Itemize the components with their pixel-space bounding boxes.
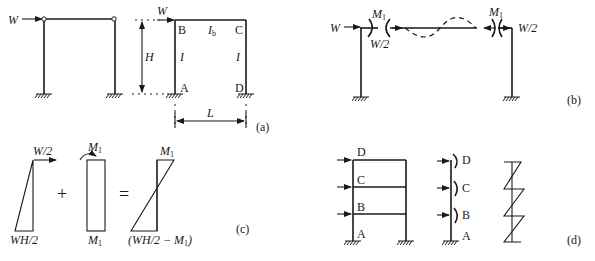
result-bottom-label: (WH/2 − M1) (128, 233, 192, 248)
fixed-support-icon (237, 94, 254, 98)
fixed-support-icon (35, 94, 52, 98)
column-node-b: B (462, 208, 470, 222)
load-label: W (330, 21, 341, 35)
cantilever-moment-diagram (15, 160, 33, 231)
fixed-support-icon (166, 94, 183, 98)
moment-arc-icon (453, 154, 457, 168)
column-inertia-right: I (235, 50, 241, 64)
resultant-moment-diagram (131, 160, 174, 231)
panel-a: W H (8, 4, 269, 134)
result-top-label: M1 (159, 144, 174, 159)
uniform-moment-diagram (87, 160, 105, 231)
moment-bottom-label: M1 (87, 233, 102, 248)
fixed-support-icon (106, 94, 123, 98)
moment-arc-icon (80, 154, 96, 160)
node-a: A (180, 81, 189, 95)
plus-sign: + (57, 184, 67, 204)
pin-icon (112, 17, 116, 21)
moment-top-label: M1 (87, 140, 102, 155)
shear-left-label: W/2 (370, 37, 389, 51)
panel-b-caption: (b) (567, 93, 581, 107)
moment-arc-icon (454, 208, 457, 223)
pinned-frame: W (8, 13, 123, 98)
top-force-label: W/2 (33, 144, 52, 158)
frame-node-b: B (357, 200, 365, 214)
column-node-c: C (462, 181, 470, 195)
panel-d: D C B A D C B A (337, 145, 581, 247)
fixed-support-icon (397, 241, 414, 245)
frame-node-d: D (357, 145, 366, 159)
column-inertia-left: I (179, 50, 185, 64)
pin-icon (42, 17, 46, 21)
node-c: C (235, 23, 243, 37)
panel-c: W/2 WH/2 + M1 M1 = M1 (WH/2 − M1) (c) (10, 140, 249, 248)
base-moment-label: WH/2 (10, 233, 38, 247)
fixed-support-icon (352, 97, 369, 101)
node-d: D (235, 81, 244, 95)
height-dimension: H (132, 20, 165, 94)
height-label: H (144, 50, 155, 64)
frame-node-a: A (357, 227, 366, 241)
zigzag-moment-diagram (504, 162, 524, 242)
structural-frame-figure: W H (0, 0, 595, 261)
moment-right-label: M1 (488, 5, 503, 20)
fixed-support-icon (503, 97, 520, 101)
node-b: B (178, 23, 186, 37)
column-node-d: D (462, 153, 471, 167)
moment-arc-icon (386, 19, 390, 37)
panel-b: W M1 M1 W/2 W/2 (b) (330, 5, 581, 107)
fixed-frame: W B C A D Ib I I (157, 4, 254, 98)
beam-inertia-label: Ib (207, 23, 216, 38)
moment-arc-icon (454, 181, 457, 196)
equals-sign: = (119, 184, 129, 204)
fixed-support-icon (442, 241, 459, 245)
column-node-a: A (462, 229, 471, 243)
panel-a-caption: (a) (256, 120, 269, 134)
span-dimension: L (175, 104, 246, 128)
panel-d-caption: (d) (567, 233, 581, 247)
load-label-right: W (157, 4, 168, 18)
moment-left-label: M1 (371, 7, 386, 22)
panel-c-caption: (c) (236, 222, 249, 236)
shear-right-label: W/2 (518, 21, 537, 35)
fixed-support-icon (344, 241, 361, 245)
load-label-left: W (8, 13, 19, 27)
span-label: L (206, 106, 214, 120)
frame-node-c: C (357, 173, 365, 187)
